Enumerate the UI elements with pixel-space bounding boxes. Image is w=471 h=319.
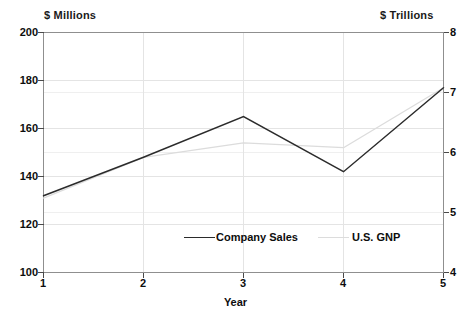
legend-swatch-company-sales xyxy=(184,237,215,238)
legend-swatch-us-gnp xyxy=(318,237,349,238)
plot-area xyxy=(0,0,471,319)
legend-label-us-gnp: U.S. GNP xyxy=(352,231,400,243)
line-chart: $ Millions $ Trillions 200 180 160 140 1… xyxy=(0,0,471,319)
legend-label-company-sales: Company Sales xyxy=(216,231,298,243)
